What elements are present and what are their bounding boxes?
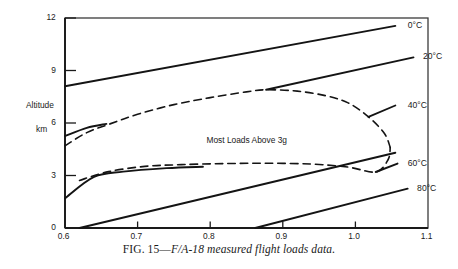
caption-prefix: FIG. 15— bbox=[123, 243, 171, 255]
series-line bbox=[65, 167, 203, 199]
data-series bbox=[65, 26, 413, 228]
y-tick-label: 3 bbox=[51, 170, 56, 180]
series-line bbox=[368, 106, 395, 117]
series-label: 20°C bbox=[423, 51, 442, 61]
x-tick-label: 0.6 bbox=[58, 231, 70, 241]
x-tick-label: 0.7 bbox=[130, 231, 142, 241]
y-axis-unit-label: km bbox=[36, 124, 47, 134]
x-tick-label: 1.1 bbox=[421, 231, 433, 241]
y-tick-label: 9 bbox=[51, 65, 56, 75]
series-line bbox=[65, 26, 395, 86]
series-label: 80°C bbox=[417, 183, 436, 193]
series-label: 0°C bbox=[408, 20, 422, 30]
series-label: 40°C bbox=[408, 100, 427, 110]
figure-caption: FIG. 15—F/A-18 measured flight loads dat… bbox=[0, 243, 458, 255]
y-axis-label: Altitude bbox=[26, 100, 54, 110]
y-tick-label: 0 bbox=[51, 222, 56, 232]
x-tick-label: 1.0 bbox=[348, 231, 360, 241]
y-tick-label: 12 bbox=[46, 12, 55, 22]
series-line bbox=[80, 153, 396, 228]
series-line bbox=[80, 148, 391, 181]
y-tick-label: 6 bbox=[51, 117, 56, 127]
series-line bbox=[65, 124, 106, 136]
figure-container: Altitude km 0.60.70.80.91.01.1 036912 0°… bbox=[0, 0, 458, 269]
series-line bbox=[266, 57, 413, 89]
chart-annotation: Most Loads Above 3g bbox=[206, 135, 287, 145]
x-tick-label: 0.9 bbox=[276, 231, 288, 241]
caption-italic: F/A-18 measured flight loads data. bbox=[171, 243, 335, 255]
series-line bbox=[255, 189, 407, 228]
series-label: 60°C bbox=[408, 158, 427, 168]
x-tick-label: 0.8 bbox=[203, 231, 215, 241]
